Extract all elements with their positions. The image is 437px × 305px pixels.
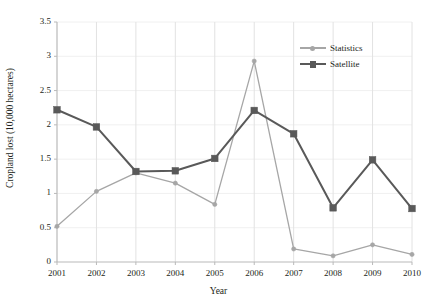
data-point-statistics-2006 xyxy=(252,59,256,63)
legend-label-statistics: Statistics xyxy=(330,43,363,53)
x-tick-label: 2007 xyxy=(274,268,314,278)
y-tick-label: 2.5 xyxy=(25,85,51,95)
data-point-statistics-2008 xyxy=(331,254,335,258)
data-point-satellite-2002 xyxy=(93,124,100,131)
y-axis-title-container: Cropland lost (10,000 hectares) xyxy=(2,0,18,255)
x-tick-label: 2008 xyxy=(313,268,353,278)
circle-marker-icon xyxy=(310,46,315,51)
y-tick-label: 3.5 xyxy=(25,16,51,26)
data-point-statistics-2004 xyxy=(173,181,177,185)
line-chart: Cropland lost (10,000 hectares) Year 00.… xyxy=(0,0,437,305)
x-axis-title: Year xyxy=(0,286,437,296)
data-point-satellite-2009 xyxy=(369,157,376,164)
data-point-statistics-2005 xyxy=(213,202,217,206)
data-point-statistics-2009 xyxy=(370,243,374,247)
legend-label-satellite: Satellite xyxy=(330,59,360,69)
x-tick-label: 2010 xyxy=(392,268,432,278)
data-point-satellite-2006 xyxy=(251,107,258,114)
data-point-satellite-2010 xyxy=(409,205,416,212)
data-point-satellite-2004 xyxy=(172,168,179,175)
y-tick-label: 0 xyxy=(25,256,51,266)
data-point-statistics-2010 xyxy=(410,252,414,256)
y-tick-label: 2 xyxy=(25,119,51,129)
data-point-satellite-2003 xyxy=(133,168,140,175)
data-point-statistics-2007 xyxy=(292,247,296,251)
legend-swatch-satellite xyxy=(300,58,326,70)
square-marker-icon xyxy=(310,61,317,68)
x-tick-label: 2009 xyxy=(353,268,393,278)
data-point-statistics-2002 xyxy=(94,189,98,193)
x-tick-label: 2004 xyxy=(155,268,195,278)
data-point-satellite-2008 xyxy=(330,205,337,212)
legend: Statistics Satellite xyxy=(300,40,363,72)
y-tick-label: 3 xyxy=(25,50,51,60)
y-tick-label: 1.5 xyxy=(25,153,51,163)
y-axis-title: Cropland lost (10,000 hectares) xyxy=(5,68,15,188)
y-tick-label: 0.5 xyxy=(25,222,51,232)
x-tick-label: 2002 xyxy=(76,268,116,278)
legend-item-statistics[interactable]: Statistics xyxy=(300,40,363,56)
x-tick-label: 2003 xyxy=(116,268,156,278)
legend-item-satellite[interactable]: Satellite xyxy=(300,56,363,72)
y-tick-label: 1 xyxy=(25,187,51,197)
x-tick-label: 2006 xyxy=(234,268,274,278)
x-tick-label: 2005 xyxy=(195,268,235,278)
data-point-statistics-2001 xyxy=(55,224,59,228)
data-point-satellite-2001 xyxy=(54,106,61,113)
data-point-satellite-2007 xyxy=(290,130,297,137)
x-tick-label: 2001 xyxy=(37,268,77,278)
plot-canvas xyxy=(0,0,437,305)
data-point-satellite-2005 xyxy=(211,155,218,162)
legend-swatch-statistics xyxy=(300,42,326,54)
